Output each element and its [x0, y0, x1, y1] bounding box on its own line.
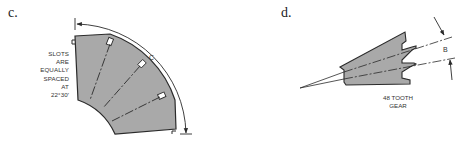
technical-drawings: C B	[0, 0, 467, 144]
dimension-b-label: B	[443, 46, 448, 53]
slotted-quadrant-part	[72, 34, 176, 134]
gear-segment-part	[300, 32, 455, 88]
dimension-b: B	[434, 17, 452, 80]
dimension-c-label: C	[149, 54, 154, 61]
